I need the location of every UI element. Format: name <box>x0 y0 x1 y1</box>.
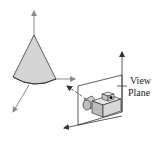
camera-lens-front <box>83 100 91 110</box>
diagram-canvas <box>0 0 166 143</box>
view-plane-label-line2: Plane <box>128 87 150 98</box>
view-plane-bottom-axis <box>64 116 122 128</box>
camera-viewfinder-dot <box>109 96 112 99</box>
cone-body <box>13 35 56 84</box>
z-axis-diagonal <box>13 85 29 112</box>
view-direction-arrow <box>67 86 86 99</box>
cone <box>13 35 56 84</box>
view-plane-label-line1: View <box>130 75 151 86</box>
camera-icon <box>83 92 121 117</box>
